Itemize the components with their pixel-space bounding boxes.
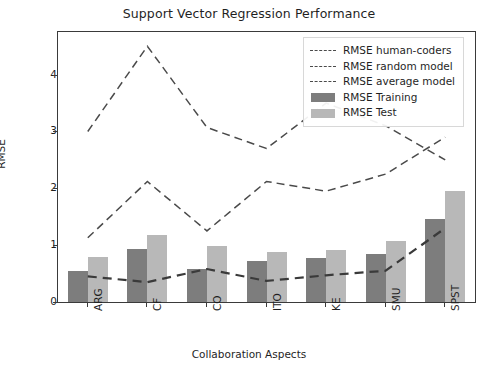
x-tick-label-ke: KE [330, 297, 342, 311]
line-rmse-random-model [88, 137, 445, 238]
y-tick-label-4: 4 [11, 68, 57, 80]
x-tick-mark-4 [325, 303, 326, 307]
legend-label: RMSE Training [343, 90, 417, 106]
y-tick-label-3: 3 [11, 124, 57, 136]
x-axis-ticks: ARGCFCOITOKESMUSPST [57, 303, 476, 363]
legend-label: RMSE human-coders [343, 43, 452, 59]
legend-swatch-icon [310, 92, 336, 103]
x-tick-label-co: CO [211, 295, 223, 311]
chart-title: Support Vector Regression Performance [0, 6, 498, 21]
line-rmse-average-model [88, 228, 445, 282]
y-axis-ticks: 01234 [4, 31, 57, 303]
x-tick-mark-5 [385, 303, 386, 307]
legend-dashed-line-icon [310, 76, 336, 87]
legend-label: RMSE average model [343, 74, 455, 90]
dashed-line-glyph [310, 81, 336, 82]
legend-item-3: RMSE Training [310, 90, 455, 106]
x-tick-label-arg: ARG [92, 288, 104, 311]
y-tick-label-2: 2 [11, 181, 57, 193]
x-tick-label-ito: ITO [271, 293, 283, 311]
y-tick-label-1: 1 [11, 238, 57, 250]
test-swatch-glyph [311, 109, 335, 118]
legend-dashed-line-icon [310, 61, 336, 72]
legend-item-1: RMSE random model [310, 59, 455, 75]
x-tick-label-spst: SPST [449, 285, 461, 311]
legend-swatch-icon [310, 108, 336, 119]
legend-item-4: RMSE Test [310, 105, 455, 121]
chart-legend: RMSE human-codersRMSE random modelRMSE a… [303, 37, 464, 127]
chart-figure: Support Vector Regression Performance RM… [0, 0, 498, 372]
x-tick-label-cf: CF [151, 298, 163, 311]
training-swatch-glyph [311, 93, 335, 102]
legend-item-2: RMSE average model [310, 74, 455, 90]
x-tick-mark-6 [444, 303, 445, 307]
x-tick-mark-2 [206, 303, 207, 307]
legend-label: RMSE random model [343, 59, 453, 75]
x-tick-mark-3 [266, 303, 267, 307]
x-tick-mark-0 [87, 303, 88, 307]
dashed-line-glyph [310, 50, 336, 51]
y-tick-label-0: 0 [11, 295, 57, 307]
x-tick-label-smu: SMU [390, 288, 402, 311]
legend-label: RMSE Test [343, 105, 397, 121]
dashed-line-glyph [310, 66, 336, 67]
legend-dashed-line-icon [310, 45, 336, 56]
x-tick-mark-1 [146, 303, 147, 307]
legend-item-0: RMSE human-coders [310, 43, 455, 59]
